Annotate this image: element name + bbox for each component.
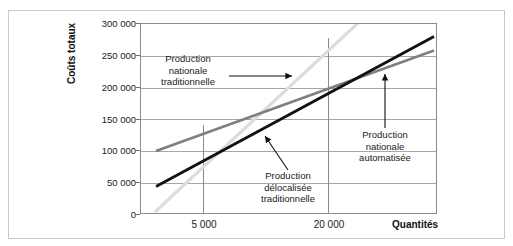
y-tick-label: 100 000 bbox=[102, 145, 136, 156]
cropped-text-artifact: · · bbox=[0, 0, 513, 9]
x-marker-5000 bbox=[203, 125, 204, 214]
annotation-line: Production bbox=[148, 53, 228, 65]
annotation-line: automatisée bbox=[343, 152, 427, 164]
chart-figure: · · Coûts totaux 0 50 000 100 000 150 00… bbox=[0, 0, 513, 246]
gridline-200000 bbox=[141, 88, 436, 89]
y-tick-mark bbox=[136, 214, 140, 215]
y-axis-ticks: 0 50 000 100 000 150 000 200 000 250 000… bbox=[78, 23, 136, 214]
annotation-line: nationale bbox=[343, 141, 427, 153]
y-axis-title: Coûts totaux bbox=[66, 23, 77, 84]
annotation-production-nationale-traditionnelle: Production nationale traditionnelle bbox=[148, 53, 228, 88]
annotation-line: délocalisée bbox=[246, 182, 330, 194]
x-tick-label-20000: 20 000 bbox=[314, 219, 345, 230]
x-axis-title: Quantités bbox=[392, 219, 438, 230]
y-tick-label: 200 000 bbox=[102, 81, 136, 92]
x-tick-label-5000: 5 000 bbox=[191, 219, 216, 230]
y-tick-label: 50 000 bbox=[107, 177, 136, 188]
y-tick-label: 250 000 bbox=[102, 49, 136, 60]
y-tick-label: 300 000 bbox=[102, 18, 136, 29]
annotation-line: Production bbox=[246, 170, 330, 182]
annotation-production-nationale-automatisee: Production nationale automatisée bbox=[343, 129, 427, 164]
annotation-line: nationale bbox=[148, 65, 228, 77]
annotation-line: traditionnelle bbox=[148, 76, 228, 88]
annotation-production-delocalisee-traditionnelle: Production délocalisée traditionnelle bbox=[246, 170, 330, 205]
y-tick-label: 150 000 bbox=[102, 113, 136, 124]
annotation-line: Production bbox=[343, 129, 427, 141]
artifact-text: · · bbox=[24, 0, 38, 3]
gridline-150000 bbox=[141, 119, 436, 120]
annotation-line: traditionnelle bbox=[246, 193, 330, 205]
